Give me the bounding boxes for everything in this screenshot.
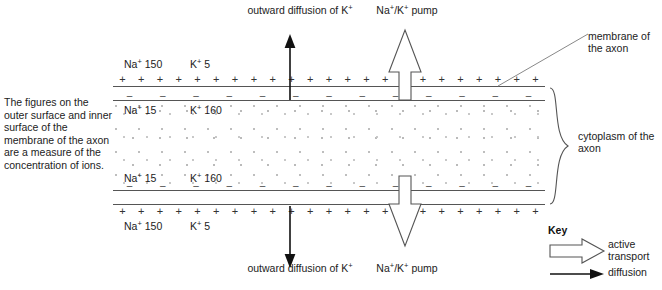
charge-symbol: – — [512, 90, 545, 101]
charge-symbol: + — [226, 205, 245, 217]
charge-symbol: – — [346, 180, 379, 191]
membrane-top-outer-line — [113, 86, 545, 87]
intro-paragraph: The figures on the outer surface and inn… — [4, 96, 112, 172]
charge-row-outer-top: +++++++++++++++++++++++ — [113, 72, 545, 86]
charge-symbol: + — [432, 73, 451, 85]
charge-symbol: + — [188, 73, 207, 85]
charge-symbol: + — [470, 73, 489, 85]
charge-symbol: – — [146, 90, 179, 101]
charge-symbol: – — [113, 90, 146, 101]
hollow-block-arrow-icon — [548, 238, 606, 264]
charge-symbol: + — [338, 73, 357, 85]
charge-symbol: – — [346, 90, 379, 101]
charge-symbol: + — [301, 73, 320, 85]
charge-symbol: + — [113, 205, 132, 217]
cytoplasm-region — [113, 101, 545, 191]
key-label-active-transport: active transport — [608, 238, 662, 263]
charge-symbol: – — [246, 180, 279, 191]
charge-symbol: + — [207, 73, 226, 85]
charge-symbol: – — [312, 90, 345, 101]
arrow-diffusion-outward-bottom — [282, 206, 298, 268]
charge-symbol: + — [169, 73, 188, 85]
label-sodium-potassium-pump-top: Na+/K+ pump — [372, 4, 442, 16]
ion-label-outer-top-potassium: K+ 5 — [190, 58, 210, 70]
label-membrane-of-axon: membrane of the axon — [588, 30, 660, 55]
charge-symbol: + — [244, 73, 263, 85]
charge-symbol: + — [357, 205, 376, 217]
charge-symbol: – — [279, 180, 312, 191]
charge-row-outer-bottom: +++++++++++++++++++++++ — [113, 204, 545, 218]
diagram-canvas: The figures on the outer surface and inn… — [0, 0, 662, 290]
charge-symbol: – — [512, 180, 545, 191]
charge-symbol: + — [132, 205, 151, 217]
charge-symbol: – — [479, 90, 512, 101]
arrow-pump-active-transport-top — [388, 28, 422, 100]
charge-symbol: + — [188, 205, 207, 217]
label-cytoplasm-of-axon: cytoplasm of the axon — [578, 130, 658, 155]
charge-symbol: + — [526, 205, 545, 217]
charge-symbol: + — [151, 73, 170, 85]
charge-symbol: + — [301, 205, 320, 217]
charge-symbol: + — [113, 73, 132, 85]
label-sodium-potassium-pump-bottom: Na+/K+ pump — [372, 262, 442, 274]
charge-symbol: – — [179, 90, 212, 101]
charge-symbol: + — [320, 73, 339, 85]
charge-symbol: + — [207, 205, 226, 217]
ion-label-outer-bottom-sodium: Na+ 150 — [124, 220, 162, 232]
charge-symbol: + — [320, 205, 339, 217]
charge-symbol: + — [507, 205, 526, 217]
charge-symbol: + — [263, 73, 282, 85]
key-label-diffusion: diffusion — [608, 266, 662, 278]
ion-label-outer-top-sodium: Na+ 150 — [124, 58, 162, 70]
ion-label-outer-bottom-potassium: K+ 5 — [190, 220, 210, 232]
arrow-diffusion-outward-top — [282, 34, 298, 100]
charge-symbol: + — [451, 73, 470, 85]
charge-symbol: + — [132, 73, 151, 85]
charge-row-inner-bottom: ––––––––––––– — [113, 178, 545, 192]
charge-symbol: + — [226, 73, 245, 85]
charge-symbol: + — [244, 205, 263, 217]
charge-symbol: – — [213, 90, 246, 101]
arrow-pump-active-transport-bottom — [388, 176, 422, 248]
charge-symbol: – — [445, 180, 478, 191]
solid-line-arrow-icon — [548, 268, 606, 280]
charge-symbol: – — [445, 90, 478, 101]
charge-symbol: – — [479, 180, 512, 191]
ion-label-inner-bottom-sodium: Na+ 15 — [124, 172, 156, 184]
ion-label-inner-top-sodium: Na+ 15 — [124, 104, 156, 116]
charge-symbol: + — [357, 73, 376, 85]
charge-symbol: + — [470, 205, 489, 217]
charge-symbol: + — [489, 205, 508, 217]
cytoplasm-brace — [548, 86, 574, 206]
key-title: Key — [548, 224, 567, 236]
charge-symbol: + — [169, 205, 188, 217]
label-outward-diffusion-bottom: outward diffusion of K+ — [245, 262, 355, 274]
charge-symbol: + — [451, 205, 470, 217]
charge-symbol: + — [151, 205, 170, 217]
membrane-leader-line — [496, 30, 592, 88]
charge-symbol: + — [432, 205, 451, 217]
label-outward-diffusion-top: outward diffusion of K+ — [245, 4, 355, 16]
charge-symbol: + — [338, 205, 357, 217]
charge-row-inner-top: ––––––––––––– — [113, 88, 545, 102]
charge-symbol: + — [263, 205, 282, 217]
ion-label-inner-bottom-potassium: K+ 160 — [190, 172, 222, 184]
ion-label-inner-top-potassium: K+ 160 — [190, 104, 222, 116]
charge-symbol: – — [246, 90, 279, 101]
charge-symbol: – — [312, 180, 345, 191]
